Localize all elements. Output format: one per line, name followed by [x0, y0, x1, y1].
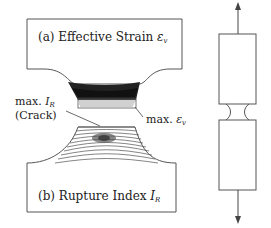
annotation-max-ir: max. IR: [15, 96, 55, 109]
leader-line-ev: [135, 107, 143, 117]
strain-contours: [68, 82, 140, 108]
panel-a-title: (a) Effective Strain εv: [38, 31, 168, 45]
arrow-up-icon: [235, 2, 241, 10]
specimen-schematic: [219, 2, 256, 224]
leader-line-ir: [66, 111, 100, 126]
arrow-down-icon: [235, 216, 241, 224]
panel-b-title: (b) Rupture Index IR: [38, 190, 160, 204]
annotation-crack: (Crack): [15, 110, 57, 121]
annotation-max-ev: max. εv: [146, 114, 186, 127]
specimen-top-outline: [27, 19, 182, 84]
